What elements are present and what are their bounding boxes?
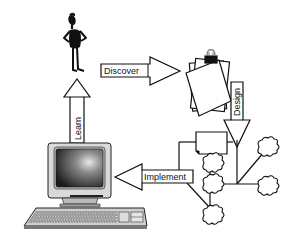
cloud-icon xyxy=(258,176,279,196)
process-cycle-diagram: Discover Design xyxy=(0,0,294,239)
cloud-icon xyxy=(203,153,224,173)
design-label: Design xyxy=(232,88,242,116)
implement-arrow: Implement xyxy=(115,164,193,190)
learn-arrow: Learn xyxy=(64,79,90,143)
computer-icon xyxy=(24,143,147,229)
cloud-icon xyxy=(203,174,224,194)
cloud-icon xyxy=(258,137,279,157)
discover-label: Discover xyxy=(104,66,139,76)
discover-arrow: Discover xyxy=(101,57,180,85)
learn-label: Learn xyxy=(73,117,83,140)
person-icon xyxy=(64,13,86,71)
cloud-icon xyxy=(203,205,224,225)
clipped-documents-icon xyxy=(186,50,231,116)
keyboard-icon xyxy=(24,208,147,229)
implement-label: Implement xyxy=(144,172,187,182)
